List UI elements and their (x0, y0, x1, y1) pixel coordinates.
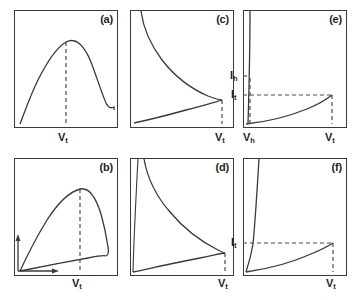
panel-f-forward-branch (246, 243, 333, 272)
panel-a-xlabel-vt: Vt (58, 131, 68, 143)
it-sub: t (234, 241, 237, 250)
panel-f-label: (f) (332, 161, 342, 173)
panel-c-xlabel-vt: Vt (215, 131, 225, 143)
panel-d: (d) (130, 158, 234, 276)
panel-d-label: (d) (216, 161, 229, 173)
vt-sub: t (222, 136, 225, 145)
panel-a-plot (14, 10, 118, 128)
figure-caption-fragment (0, 289, 352, 300)
panel-c: (c) (130, 10, 234, 128)
panel-e-plot (243, 10, 347, 128)
panel-f: (f) (243, 158, 347, 276)
panel-b-plot (14, 158, 118, 276)
vh-sub: h (250, 136, 255, 145)
panel-d-upper-branch (144, 159, 225, 253)
panel-f-plot (243, 158, 347, 276)
panel-b-lower-branch (20, 256, 106, 271)
vt-sub: t (65, 136, 68, 145)
panel-c-label: (c) (216, 13, 229, 25)
panel-d-plot (130, 158, 234, 276)
ih-sub: h (233, 74, 238, 83)
panel-a-curve (20, 41, 114, 124)
panel-e-ylabel-ih: Ih (230, 69, 238, 81)
panel-e-forward-branch (246, 95, 332, 124)
panel-c-lower-branch (134, 100, 222, 123)
panel-a: (a) (14, 10, 118, 128)
panel-e-ylabel-it: It (231, 88, 237, 100)
panel-b-label: (b) (100, 161, 113, 173)
panel-d-lower-branch (133, 253, 225, 272)
panel-b-xlabel-vt: Vt (72, 277, 82, 289)
panel-d-steep-line (133, 159, 138, 272)
vt-sub: t (332, 136, 335, 145)
panel-c-plot (130, 10, 234, 128)
panel-f-steep-branch (246, 159, 259, 272)
figure-panel-grid: (a) Vt (c) Vt (e) Ih It Vh (0, 0, 352, 300)
panel-e-label: (e) (329, 13, 342, 25)
panel-d-xlabel-vt: Vt (218, 277, 228, 289)
panel-b: (b) (14, 158, 118, 276)
panel-f-xlabel-vt: Vt (326, 277, 336, 289)
panel-e-xlabel-vh: Vh (243, 131, 255, 143)
panel-c-upper-branch (141, 11, 222, 100)
panel-f-ylabel-it: It (231, 236, 237, 248)
it-sub: t (234, 93, 237, 102)
panel-b-upper-branch (20, 189, 108, 271)
panel-a-label: (a) (100, 13, 113, 25)
panel-e-xlabel-vt: Vt (325, 131, 335, 143)
panel-e: (e) (243, 10, 347, 128)
